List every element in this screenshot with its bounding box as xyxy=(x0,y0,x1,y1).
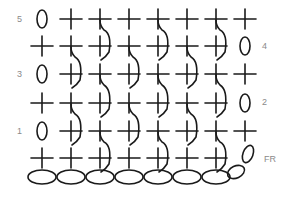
single-crochet-icon xyxy=(118,93,140,113)
single-crochet-icon xyxy=(31,36,53,56)
single-crochet-icon xyxy=(118,36,140,56)
row-label: 5 xyxy=(17,15,22,24)
single-crochet-icon xyxy=(205,9,227,29)
chain-stitch-icon xyxy=(202,170,230,184)
chain-stitch-icon xyxy=(240,144,256,164)
single-crochet-icon xyxy=(147,64,169,84)
chain-stitch-icon xyxy=(240,37,250,55)
post-stitch-icon xyxy=(129,47,139,88)
post-stitch-icon xyxy=(216,75,226,117)
single-crochet-icon xyxy=(176,93,198,113)
post-stitch-icon xyxy=(100,75,110,117)
single-crochet-icon xyxy=(205,121,227,141)
single-crochet-icon xyxy=(147,9,169,29)
single-crochet-icon xyxy=(234,64,256,84)
row-label: 2 xyxy=(262,98,267,107)
single-crochet-icon xyxy=(60,9,82,29)
single-crochet-icon xyxy=(89,121,111,141)
post-stitch-icon xyxy=(216,20,226,60)
single-crochet-icon xyxy=(147,121,169,141)
single-crochet-icon xyxy=(176,36,198,56)
row-label: 4 xyxy=(262,42,267,51)
single-crochet-icon xyxy=(60,148,82,168)
single-crochet-icon xyxy=(118,9,140,29)
post-stitch-icon xyxy=(187,104,197,145)
chain-stitch-icon xyxy=(86,170,114,184)
row-label: 1 xyxy=(17,127,22,136)
row-label: 3 xyxy=(17,70,22,79)
stitch-diagram xyxy=(0,0,289,201)
post-stitch-icon xyxy=(158,20,168,60)
chain-stitch-icon xyxy=(28,170,56,184)
row-label: FR xyxy=(264,155,276,164)
chain-stitch-icon xyxy=(37,10,47,28)
post-stitch-icon xyxy=(129,104,139,145)
single-crochet-icon xyxy=(205,64,227,84)
chain-stitch-icon xyxy=(173,170,201,184)
post-stitch-icon xyxy=(158,132,168,172)
post-stitch-icon xyxy=(100,20,110,60)
chain-stitch-icon xyxy=(225,163,246,181)
single-crochet-icon xyxy=(234,121,256,141)
chain-stitch-icon xyxy=(37,122,47,140)
single-crochet-icon xyxy=(118,148,140,168)
single-crochet-icon xyxy=(176,148,198,168)
single-crochet-icon xyxy=(234,9,256,29)
chain-stitch-icon xyxy=(37,65,47,83)
chain-stitch-icon xyxy=(115,170,143,184)
single-crochet-icon xyxy=(31,148,53,168)
post-stitch-icon xyxy=(71,47,81,88)
single-crochet-icon xyxy=(89,9,111,29)
single-crochet-icon xyxy=(176,9,198,29)
single-crochet-icon xyxy=(89,64,111,84)
single-crochet-icon xyxy=(60,93,82,113)
single-crochet-icon xyxy=(31,93,53,113)
post-stitch-icon xyxy=(158,75,168,117)
chain-stitch-icon xyxy=(144,170,172,184)
post-stitch-icon xyxy=(216,132,226,172)
chain-stitch-icon xyxy=(57,170,85,184)
post-stitch-icon xyxy=(187,47,197,88)
single-crochet-icon xyxy=(60,36,82,56)
chain-stitch-icon xyxy=(240,94,250,112)
post-stitch-icon xyxy=(71,104,81,145)
post-stitch-icon xyxy=(100,132,110,172)
